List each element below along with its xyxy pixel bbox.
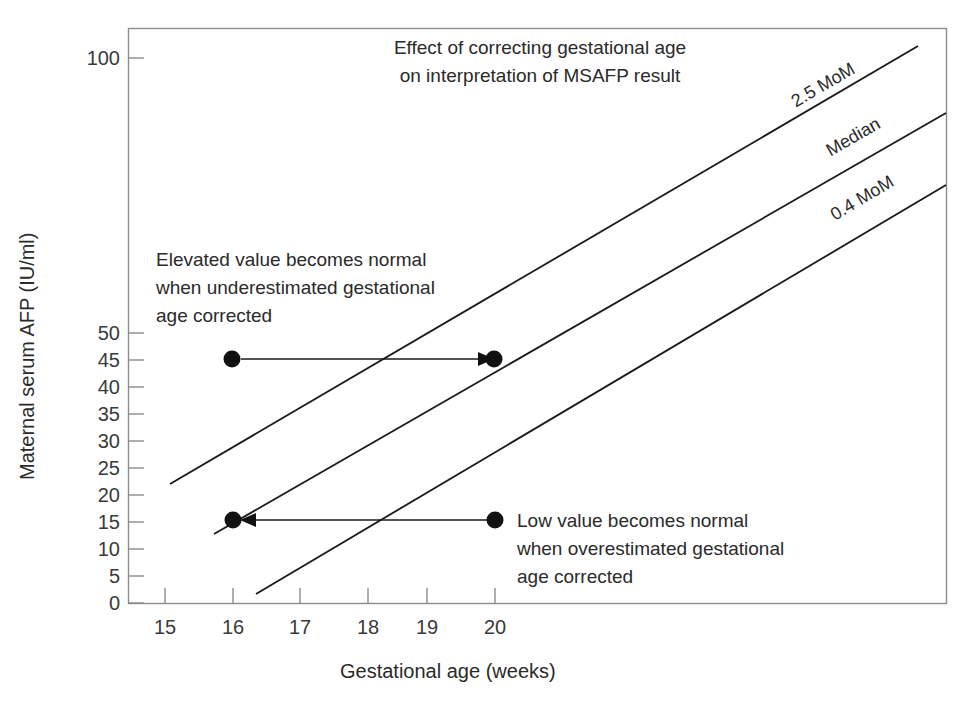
x-tick-label: 20 xyxy=(484,616,506,638)
y-tick-label: 35 xyxy=(98,403,120,425)
msafp-chart: 100 50 45 40 35 30 25 20 15 10 5 0 15 16… xyxy=(0,0,970,705)
y-tick-label: 10 xyxy=(98,538,120,560)
x-tick-label: 17 xyxy=(289,616,311,638)
annotation-low-line-3: age corrected xyxy=(517,566,633,587)
chart-title-line-2: on interpretation of MSAFP result xyxy=(400,65,681,86)
y-tick-label: 100 xyxy=(87,47,120,69)
y-tick-label: 5 xyxy=(109,565,120,587)
data-point-low-start xyxy=(487,512,504,529)
annotation-low-value: Low value becomes normal when overestima… xyxy=(516,510,784,587)
x-axis-title: Gestational age (weeks) xyxy=(340,660,556,682)
arrow-low xyxy=(240,513,488,527)
annotation-elevated-value: Elevated value becomes normal when under… xyxy=(155,249,435,326)
y-tick-label: 20 xyxy=(98,484,120,506)
y-tick-label: 30 xyxy=(98,430,120,452)
y-tick-label: 40 xyxy=(98,376,120,398)
arrow-elevated xyxy=(241,352,494,366)
y-tick-label: 0 xyxy=(109,592,120,614)
data-point-low-corrected xyxy=(225,512,242,529)
x-tick-label: 16 xyxy=(222,616,244,638)
annotation-elevated-line-1: Elevated value becomes normal xyxy=(156,249,426,270)
x-tick-label: 19 xyxy=(416,616,438,638)
x-axis-tick-labels: 15 16 17 18 19 20 xyxy=(154,616,506,638)
x-tick-label: 15 xyxy=(154,616,176,638)
y-tick-label: 25 xyxy=(98,457,120,479)
y-axis-tick-labels: 100 50 45 40 35 30 25 20 15 10 5 0 xyxy=(87,47,120,614)
page-bottom-edge xyxy=(0,687,970,705)
y-tick-label: 50 xyxy=(98,322,120,344)
data-point-elevated-corrected xyxy=(486,351,503,368)
y-tick-label: 45 xyxy=(98,349,120,371)
y-axis-ticks xyxy=(128,58,144,603)
series-label-0-4-mom: 0.4 MoM xyxy=(827,171,897,224)
annotation-low-line-1: Low value becomes normal xyxy=(517,510,748,531)
series-line-median xyxy=(214,113,946,534)
annotation-elevated-line-2: when underestimated gestational xyxy=(155,277,435,298)
y-tick-label: 15 xyxy=(98,511,120,533)
annotation-elevated-line-3: age corrected xyxy=(156,305,272,326)
chart-title: Effect of correcting gestational age on … xyxy=(394,37,686,86)
annotation-low-line-2: when overestimated gestational xyxy=(516,538,784,559)
y-axis-title: Maternal serum AFP (IU/ml) xyxy=(16,233,38,480)
series-line-0-4-mom xyxy=(256,185,946,594)
chart-title-line-1: Effect of correcting gestational age xyxy=(394,37,686,58)
x-tick-label: 18 xyxy=(357,616,379,638)
figure-container: 100 50 45 40 35 30 25 20 15 10 5 0 15 16… xyxy=(0,0,970,705)
data-point-elevated-start xyxy=(224,351,241,368)
series-label-2-5-mom: 2.5 MoM xyxy=(788,59,859,112)
x-axis-ticks xyxy=(165,588,495,604)
data-points xyxy=(224,351,504,529)
